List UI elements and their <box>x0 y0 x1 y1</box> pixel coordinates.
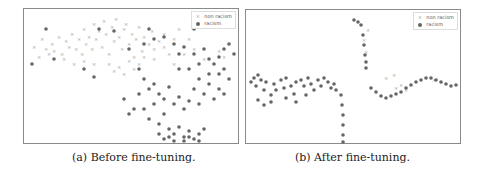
svg-text:×: × <box>182 51 186 57</box>
plot-a: ××××××××××××××××××××××××××××××××××××××××… <box>23 8 239 144</box>
svg-text:×: × <box>90 46 94 52</box>
x-marker-icon: × <box>417 14 422 21</box>
svg-text:×: × <box>394 85 398 91</box>
svg-text:×: × <box>217 48 221 54</box>
svg-text:×: × <box>62 56 66 62</box>
svg-text:×: × <box>120 46 124 52</box>
svg-text:×: × <box>127 41 131 47</box>
legend-item-racism: racism <box>426 21 443 28</box>
svg-text:×: × <box>202 56 206 62</box>
svg-text:×: × <box>112 38 116 44</box>
dot-marker-icon <box>196 22 200 26</box>
svg-text:×: × <box>384 75 388 81</box>
svg-text:×: × <box>70 31 74 37</box>
svg-text:×: × <box>192 46 196 52</box>
svg-text:×: × <box>172 36 176 42</box>
svg-text:×: × <box>366 27 370 33</box>
svg-text:×: × <box>87 34 91 40</box>
caption-b: (b) After fine-tuning. <box>295 151 410 164</box>
svg-text:×: × <box>392 72 396 78</box>
svg-text:×: × <box>114 16 118 22</box>
svg-text:×: × <box>147 41 151 47</box>
svg-text:×: × <box>104 31 108 37</box>
svg-text:×: × <box>67 44 71 50</box>
svg-text:×: × <box>32 44 36 50</box>
svg-text:×: × <box>100 44 104 50</box>
scatter-a: ××××××××××××××××××××××××××××××××××××××××… <box>24 9 240 145</box>
svg-text:×: × <box>132 66 136 72</box>
svg-text:×: × <box>172 61 176 67</box>
x-marker-icon: × <box>195 13 200 20</box>
legend-item-racism: racism <box>204 20 221 27</box>
svg-text:×: × <box>187 36 191 42</box>
svg-text:×: × <box>399 82 403 88</box>
svg-text:×: × <box>112 68 116 74</box>
svg-text:×: × <box>124 21 128 27</box>
svg-text:×: × <box>84 41 88 47</box>
svg-text:×: × <box>132 54 136 60</box>
svg-text:×: × <box>137 24 141 30</box>
svg-text:×: × <box>77 36 81 42</box>
svg-text:×: × <box>50 41 54 47</box>
svg-text:×: × <box>92 61 96 67</box>
svg-text:×: × <box>167 51 171 57</box>
scatter-b: ×××××××××× <box>246 10 462 145</box>
svg-text:×: × <box>74 46 78 52</box>
svg-text:×: × <box>47 51 51 57</box>
caption-a: (a) Before fine-tuning. <box>72 151 196 164</box>
svg-text:×: × <box>37 54 41 60</box>
svg-text:×: × <box>152 46 156 52</box>
svg-text:×: × <box>162 44 166 50</box>
svg-text:×: × <box>142 34 146 40</box>
svg-text:×: × <box>142 54 146 60</box>
svg-text:×: × <box>80 51 84 57</box>
svg-text:×: × <box>177 26 181 32</box>
svg-text:×: × <box>362 37 366 43</box>
svg-text:×: × <box>134 36 138 42</box>
plot-b: ×××××××××× ×non racism racism <box>245 9 461 144</box>
svg-text:×: × <box>137 61 141 67</box>
svg-text:×: × <box>102 18 106 24</box>
svg-text:×: × <box>57 34 61 40</box>
svg-text:×: × <box>107 61 111 67</box>
svg-text:×: × <box>117 64 121 70</box>
legend-item-non-racism: non racism <box>204 13 232 20</box>
legend-b: ×non racism racism <box>413 12 458 30</box>
svg-text:×: × <box>117 34 121 40</box>
svg-text:×: × <box>127 58 131 64</box>
svg-text:×: × <box>82 26 86 32</box>
legend-item-non-racism: non racism <box>426 14 454 21</box>
dot-marker-icon <box>418 23 422 27</box>
svg-text:×: × <box>222 54 226 60</box>
svg-text:×: × <box>52 48 56 54</box>
svg-text:×: × <box>40 36 44 42</box>
svg-text:×: × <box>94 36 98 42</box>
svg-text:×: × <box>152 56 156 62</box>
svg-text:×: × <box>82 58 86 64</box>
legend-a: ×non racism racism <box>191 11 236 29</box>
svg-text:×: × <box>107 51 111 57</box>
svg-text:×: × <box>122 71 126 77</box>
svg-text:×: × <box>110 24 114 30</box>
svg-text:×: × <box>157 38 161 44</box>
svg-text:×: × <box>72 61 76 67</box>
svg-text:×: × <box>92 21 96 27</box>
